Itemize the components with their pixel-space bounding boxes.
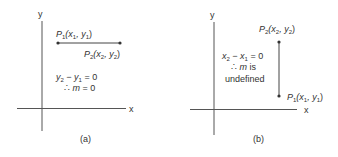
caption-a: (a) xyxy=(80,134,91,144)
equation-difference: x2 − x1 = 0 xyxy=(221,51,263,62)
x-axis-label: x xyxy=(304,105,309,115)
figure-b: y x P2(x2, y2) P1(x1, y1) x2 − x1 = 0 ∴ … xyxy=(190,10,323,144)
equation-difference: y2 − y1 = 0 xyxy=(55,72,97,83)
p2-label: P2(x2, y2) xyxy=(259,24,295,35)
point-p1 xyxy=(277,94,280,97)
equation-slope: ∴ m = 0 xyxy=(64,83,95,93)
caption-b: (b) xyxy=(253,134,264,144)
point-p1 xyxy=(56,41,59,44)
y-axis-label: y xyxy=(210,10,215,20)
y-axis-label: y xyxy=(38,9,43,19)
point-p2 xyxy=(277,40,280,43)
equation-undefined: undefined xyxy=(225,74,265,84)
p2-label: P2(x2, y2) xyxy=(84,49,120,60)
equation-slope: ∴ m is xyxy=(231,62,257,72)
x-axis-label: x xyxy=(129,104,134,114)
figure-a: y x P1(x1, y1) P2(x2, y2) y2 − y1 = 0 ∴ … xyxy=(17,9,134,144)
point-p2 xyxy=(118,41,121,44)
p1-label: P1(x1, y1) xyxy=(56,29,92,40)
slope-diagrams: y x P1(x1, y1) P2(x2, y2) y2 − y1 = 0 ∴ … xyxy=(0,0,338,157)
p1-label: P1(x1, y1) xyxy=(287,92,323,103)
